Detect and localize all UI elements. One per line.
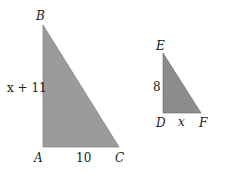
vertex-label-b: B xyxy=(35,9,45,23)
vertex-label-d: D xyxy=(155,116,166,130)
vertex-label-f: F xyxy=(198,116,208,130)
similar-triangles-diagram: B A C x + 11 10 E D F 8 x xyxy=(0,0,229,176)
triangle-abc xyxy=(43,25,119,147)
side-label-de: 8 xyxy=(153,80,161,94)
vertex-label-e: E xyxy=(155,39,165,53)
vertex-label-a: A xyxy=(33,151,43,165)
triangle-def xyxy=(163,53,201,113)
vertex-label-c: C xyxy=(115,151,124,165)
side-label-ab: x + 11 xyxy=(7,81,47,95)
side-label-df: x xyxy=(178,115,185,129)
side-label-ac: 10 xyxy=(76,151,91,165)
